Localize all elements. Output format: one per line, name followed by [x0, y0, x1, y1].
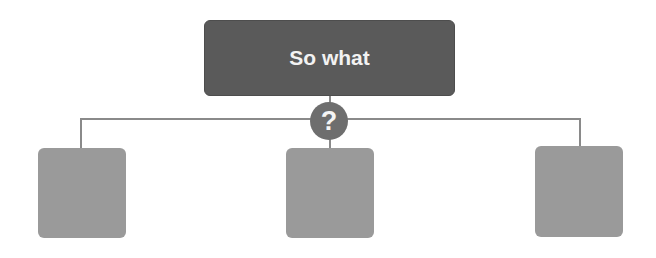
root-node-label: So what: [289, 46, 370, 70]
child-node-right: [535, 146, 623, 237]
question-mark-glyph: ?: [321, 108, 338, 135]
connector-right-vertical: [579, 118, 581, 147]
child-node-left: [38, 148, 126, 238]
question-mark-icon: ?: [310, 102, 348, 140]
root-node: So what: [204, 20, 455, 96]
connector-left-vertical: [80, 118, 82, 149]
child-node-middle: [286, 148, 374, 238]
